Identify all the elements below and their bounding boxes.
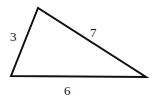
side-label-hypotenuse: 7 xyxy=(90,25,97,40)
side-label-base: 6 xyxy=(64,83,71,97)
triangle-diagram: 3 7 6 xyxy=(0,0,152,97)
side-label-left: 3 xyxy=(10,29,17,44)
triangle-shape xyxy=(11,8,146,77)
